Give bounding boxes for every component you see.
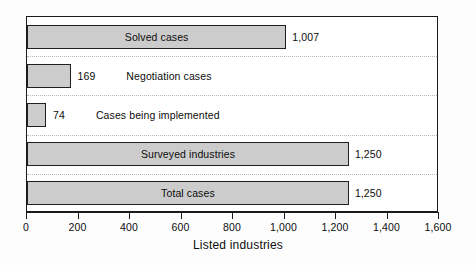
x-tick [181, 212, 182, 219]
bar-row: 169Negotiation cases [27, 56, 437, 95]
x-tick [232, 212, 233, 219]
x-tick-label: 800 [223, 221, 241, 233]
x-tick-label: 1,400 [373, 221, 400, 233]
bar-row: Surveyed industries1,250 [27, 135, 437, 174]
bar-value-label: 1,250 [355, 148, 382, 160]
x-tick [335, 212, 336, 219]
x-tick-label: 1,600 [425, 221, 452, 233]
bar-category-label: Solved cases [125, 31, 189, 43]
x-tick [26, 212, 27, 219]
bar-row: 74Cases being implemented [27, 95, 437, 134]
bar-value-label: 74 [53, 109, 65, 121]
bar-value-label: 169 [78, 70, 96, 82]
x-tick-label: 200 [69, 221, 87, 233]
x-tick [387, 212, 388, 219]
bar-value-label: 1,250 [355, 187, 382, 199]
bar-category-label: Total cases [161, 187, 215, 199]
x-tick [129, 212, 130, 219]
bar-chart: Solved cases1,007169Negotiation cases74C… [0, 0, 476, 265]
bar[interactable]: Total cases [27, 181, 349, 205]
x-tick-label: 1,000 [270, 221, 297, 233]
x-tick [284, 212, 285, 219]
bar[interactable]: Solved cases [27, 25, 286, 49]
plot-area: Solved cases1,007169Negotiation cases74C… [26, 16, 438, 212]
x-tick-label: 0 [23, 221, 29, 233]
bar-category-label: Cases being implemented [96, 109, 220, 121]
bar-value-label: 1,007 [292, 31, 319, 43]
bar-row: Total cases1,250 [27, 174, 437, 213]
x-tick-label: 600 [172, 221, 190, 233]
bar-rows: Solved cases1,007169Negotiation cases74C… [27, 17, 437, 211]
x-tick [438, 212, 439, 219]
x-axis-title: Listed industries [0, 238, 476, 252]
bar-row: Solved cases1,007 [27, 17, 437, 56]
bar[interactable] [27, 64, 71, 88]
bar[interactable]: Surveyed industries [27, 142, 349, 166]
bar[interactable] [27, 103, 46, 127]
x-tick-label: 400 [120, 221, 138, 233]
x-tick-label: 1,200 [322, 221, 349, 233]
bar-category-label: Negotiation cases [126, 70, 211, 82]
bar-category-label: Surveyed industries [141, 148, 235, 160]
x-tick [78, 212, 79, 219]
